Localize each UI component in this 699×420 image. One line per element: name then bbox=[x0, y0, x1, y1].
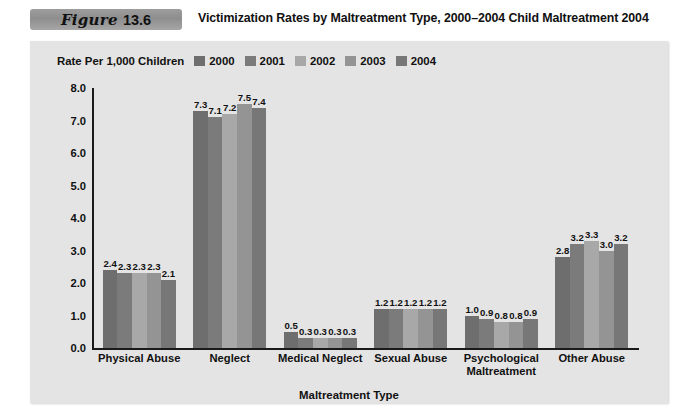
bar-2002: 0.8 bbox=[494, 322, 509, 348]
x-axis-category-labels: Physical AbuseNeglectMedical NeglectSexu… bbox=[94, 352, 637, 386]
bar-value-label: 2.1 bbox=[162, 268, 175, 279]
y-axis-tick-label: 0.0 bbox=[70, 342, 86, 354]
figure-badge-number: 13.6 bbox=[123, 12, 151, 28]
bar-2001: 1.2 bbox=[389, 309, 404, 348]
x-axis-label: Medical Neglect bbox=[275, 352, 366, 386]
bar-2003: 0.3 bbox=[328, 338, 343, 348]
bar-value-label: 2.3 bbox=[147, 261, 160, 272]
figure-container: Figure 13.6 Victimization Rates by Maltr… bbox=[0, 0, 699, 420]
figure-title: Victimization Rates by Maltreatment Type… bbox=[198, 11, 649, 25]
bar-group: 1.21.21.21.21.2 bbox=[366, 88, 457, 348]
y-axis-tick-label: 4.0 bbox=[70, 212, 86, 224]
bar-2002: 0.3 bbox=[313, 338, 328, 348]
legend-swatch-icon bbox=[295, 56, 306, 66]
bar-2000: 7.3 bbox=[193, 111, 208, 348]
figure-header: Figure 13.6 Victimization Rates by Maltr… bbox=[0, 0, 699, 40]
bar-2004: 1.2 bbox=[433, 309, 448, 348]
bar-value-label: 0.9 bbox=[480, 307, 493, 318]
bar-2001: 0.3 bbox=[298, 338, 313, 348]
y-axis-tick-label: 1.0 bbox=[70, 310, 86, 322]
bar-2003: 1.2 bbox=[418, 309, 433, 348]
y-axis-tick-label: 8.0 bbox=[70, 82, 86, 94]
bar-2000: 1.0 bbox=[465, 316, 480, 349]
legend-label: 2002 bbox=[310, 55, 335, 67]
legend-items: 20002001200220032004 bbox=[194, 55, 446, 67]
bar-value-label: 3.3 bbox=[585, 229, 598, 240]
legend-label: 2001 bbox=[260, 55, 285, 67]
bar-value-label: 2.3 bbox=[133, 261, 146, 272]
bar-2004: 7.4 bbox=[252, 108, 267, 349]
legend-item-2002: 2002 bbox=[295, 55, 335, 67]
bar-2000: 2.8 bbox=[555, 257, 570, 348]
bar-2000: 2.4 bbox=[103, 270, 118, 348]
chart-panel: Rate Per 1,000 Children 2000200120022003… bbox=[30, 41, 668, 403]
figure-badge-word: Figure bbox=[61, 11, 118, 29]
bar-value-label: 0.3 bbox=[343, 326, 356, 337]
y-axis-tick-label: 3.0 bbox=[70, 245, 86, 257]
bar-value-label: 7.3 bbox=[194, 99, 207, 110]
bar-value-label: 3.2 bbox=[570, 232, 583, 243]
bar-groups: 2.42.32.32.32.17.37.17.27.57.40.50.30.30… bbox=[94, 88, 637, 348]
bar-value-label: 7.4 bbox=[252, 96, 265, 107]
bar-value-label: 1.2 bbox=[419, 297, 432, 308]
x-axis-label: Sexual Abuse bbox=[366, 352, 457, 386]
bar-value-label: 7.2 bbox=[223, 102, 236, 113]
bar-2003: 2.3 bbox=[147, 273, 162, 348]
bar-value-label: 1.2 bbox=[404, 297, 417, 308]
legend-swatch-icon bbox=[245, 56, 256, 66]
y-axis-tick-label: 6.0 bbox=[70, 147, 86, 159]
bar-value-label: 0.3 bbox=[299, 326, 312, 337]
bar-2001: 2.3 bbox=[117, 273, 132, 348]
bar-value-label: 7.5 bbox=[238, 92, 251, 103]
bar-2001: 3.2 bbox=[570, 244, 585, 348]
bar-value-label: 0.8 bbox=[509, 310, 522, 321]
x-axis-label: PsychologicalMaltreatment bbox=[456, 352, 547, 386]
bar-2003: 0.8 bbox=[509, 322, 524, 348]
y-axis-tick-label: 5.0 bbox=[70, 180, 86, 192]
bar-value-label: 0.3 bbox=[328, 326, 341, 337]
legend-item-2004: 2004 bbox=[396, 55, 436, 67]
bar-value-label: 0.9 bbox=[524, 307, 537, 318]
bar-value-label: 1.2 bbox=[389, 297, 402, 308]
legend-swatch-icon bbox=[345, 56, 356, 66]
bar-2004: 0.9 bbox=[523, 319, 538, 348]
bar-value-label: 3.2 bbox=[614, 232, 627, 243]
bar-2003: 3.0 bbox=[599, 251, 614, 349]
chart-legend: Rate Per 1,000 Children 2000200120022003… bbox=[57, 55, 446, 67]
bar-2004: 0.3 bbox=[342, 338, 357, 348]
y-axis-tick-label: 7.0 bbox=[70, 115, 86, 127]
bar-group: 7.37.17.27.57.4 bbox=[185, 88, 276, 348]
bar-2002: 7.2 bbox=[222, 114, 237, 348]
legend-item-2001: 2001 bbox=[245, 55, 285, 67]
bar-group: 1.00.90.80.80.9 bbox=[456, 88, 547, 348]
bar-value-label: 3.0 bbox=[600, 239, 613, 250]
bar-2002: 3.3 bbox=[584, 241, 599, 348]
bar-2000: 0.5 bbox=[284, 332, 299, 348]
x-axis-title: Maltreatment Type bbox=[30, 389, 668, 401]
x-axis-line bbox=[92, 348, 639, 350]
bar-2000: 1.2 bbox=[374, 309, 389, 348]
bar-value-label: 2.3 bbox=[118, 261, 131, 272]
figure-number-badge: Figure 13.6 bbox=[30, 9, 182, 30]
bar-value-label: 0.5 bbox=[284, 320, 297, 331]
bar-value-label: 2.8 bbox=[556, 245, 569, 256]
bar-2001: 0.9 bbox=[479, 319, 494, 348]
legend-title: Rate Per 1,000 Children bbox=[57, 55, 184, 67]
legend-item-2000: 2000 bbox=[194, 55, 234, 67]
legend-swatch-icon bbox=[396, 56, 407, 66]
bar-value-label: 2.4 bbox=[103, 258, 116, 269]
legend-label: 2000 bbox=[209, 55, 234, 67]
legend-swatch-icon bbox=[194, 56, 205, 66]
bar-group: 2.42.32.32.32.1 bbox=[94, 88, 185, 348]
bar-value-label: 1.0 bbox=[465, 304, 478, 315]
plot-area: 8.07.06.05.04.03.02.01.00.0 2.42.32.32.3… bbox=[92, 88, 637, 348]
y-axis-tick-label: 2.0 bbox=[70, 277, 86, 289]
bar-value-label: 1.2 bbox=[375, 297, 388, 308]
x-axis-label: Neglect bbox=[185, 352, 276, 386]
legend-label: 2003 bbox=[360, 55, 385, 67]
bar-2004: 3.2 bbox=[614, 244, 629, 348]
bar-2003: 7.5 bbox=[237, 104, 252, 348]
bar-value-label: 1.2 bbox=[433, 297, 446, 308]
bar-value-label: 0.3 bbox=[314, 326, 327, 337]
x-axis-label: Physical Abuse bbox=[94, 352, 185, 386]
